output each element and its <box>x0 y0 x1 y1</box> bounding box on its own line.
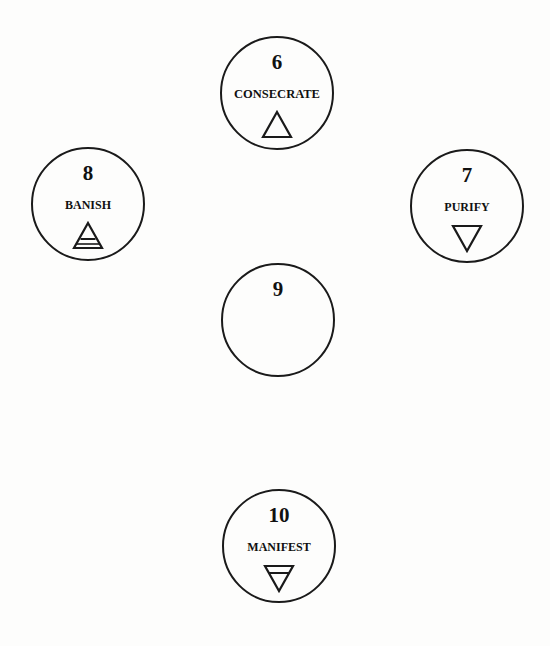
node-label: BANISH <box>33 199 143 211</box>
node-consecrate: 6 CONSECRATE <box>220 36 334 150</box>
node-label: MANIFEST <box>224 541 334 553</box>
earth-triangle-icon <box>263 563 295 593</box>
water-triangle-icon <box>451 223 483 253</box>
node-purify: 7 PURIFY <box>410 149 524 263</box>
fire-triangle-icon <box>261 110 293 140</box>
node-center: 9 <box>221 263 335 377</box>
node-number: 7 <box>412 165 522 186</box>
node-manifest: 10 MANIFEST <box>222 489 336 603</box>
node-number: 10 <box>224 505 334 526</box>
node-label: CONSECRATE <box>222 88 332 101</box>
node-number: 6 <box>222 52 332 73</box>
node-number: 8 <box>33 163 143 184</box>
node-banish: 8 BANISH <box>31 147 145 261</box>
node-number: 9 <box>223 279 333 300</box>
node-label: PURIFY <box>412 201 522 213</box>
air-triangle-icon <box>72 221 104 251</box>
